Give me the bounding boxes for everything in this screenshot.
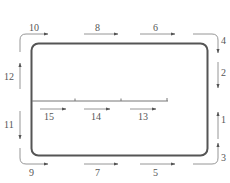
label-2: 2 [221,67,226,78]
label-1: 1 [221,114,226,125]
label-9: 9 [29,167,34,178]
main-frame [32,44,208,156]
interior-line [32,98,168,101]
label-8: 8 [95,22,100,33]
label-5: 5 [153,167,158,178]
label-10: 10 [29,22,39,33]
label-12: 12 [4,71,14,82]
label-3: 3 [221,152,226,163]
diagram-canvas: 10 8 6 4 2 1 3 12 11 9 7 5 15 14 13 [0,0,230,183]
label-6: 6 [153,22,158,33]
label-14: 14 [91,111,101,122]
label-4: 4 [221,35,226,46]
label-7: 7 [95,167,100,178]
label-13: 13 [138,111,148,122]
label-11: 11 [4,119,14,130]
label-15: 15 [44,111,54,122]
